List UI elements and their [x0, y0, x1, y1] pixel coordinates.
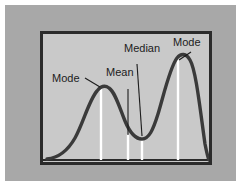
leader-line-mode-left — [85, 78, 100, 87]
label-mode-right: Mode — [173, 37, 201, 48]
leader-line-median — [137, 64, 142, 136]
figure-canvas: Mode Mean Median Mode — [0, 0, 241, 186]
label-mean: Mean — [106, 67, 134, 78]
label-mode-left: Mode — [52, 73, 80, 84]
label-median: Median — [124, 43, 160, 54]
figure-mat: Mode Mean Median Mode — [5, 5, 236, 181]
